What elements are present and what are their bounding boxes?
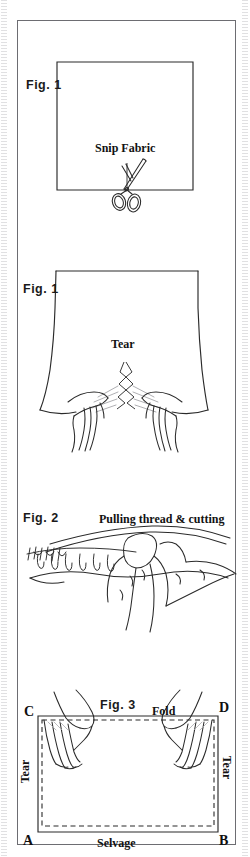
fig2-pulling-illustration: [0, 470, 250, 660]
right-hand-holding-fold-icon: [162, 690, 212, 769]
figure-fig2-pulling: Fig. 2 Pulling thread & cutting: [0, 470, 250, 660]
scissors-icon: [110, 159, 146, 213]
fig2-figure-tag: Fig. 2: [23, 511, 59, 525]
fig3-corner-label-d: D: [219, 700, 229, 716]
hand-pulling-thread-icon: [107, 533, 236, 632]
fig1-tear-caption: Tear: [111, 337, 135, 352]
fig3-corner-label-b: B: [219, 833, 228, 849]
fig3-left-tear-label: Tear: [18, 760, 33, 784]
right-hand-icon: [142, 392, 182, 452]
fig3-figure-tag: Fig. 3: [100, 698, 136, 712]
fold-under-layer-dashed: [42, 720, 214, 826]
fig3-corner-label-a: A: [23, 833, 33, 849]
fig1-snip-illustration: [0, 0, 250, 220]
figure-fig1-tear: Fig. 1 Tear: [0, 220, 250, 470]
scanned-page: Fig. 1 Snip Fabric: [0, 0, 250, 857]
fig1-snip-caption: Snip Fabric: [95, 141, 155, 156]
left-hand-holding-fold-icon: [44, 690, 94, 769]
fig3-fold-illustration: [0, 660, 250, 857]
left-hand-icon: [68, 392, 108, 452]
fig3-right-tear-label: Tear: [219, 756, 234, 780]
figure-fig3-fold: Fig. 3 Fold C D A B Tear Tear Selvage: [0, 660, 250, 857]
figure-fig1-snip: Fig. 1 Snip Fabric: [0, 0, 250, 220]
fig1-snip-figure-tag: Fig. 1: [26, 78, 62, 92]
tear-line: [117, 362, 135, 409]
fig1-tear-figure-tag: Fig. 1: [23, 282, 59, 296]
fig3-corner-label-c: C: [24, 704, 34, 720]
fig3-selvage-label: Selvage: [97, 836, 136, 851]
fig2-caption: Pulling thread & cutting: [99, 512, 224, 527]
fig3-fold-label: Fold: [152, 704, 175, 719]
